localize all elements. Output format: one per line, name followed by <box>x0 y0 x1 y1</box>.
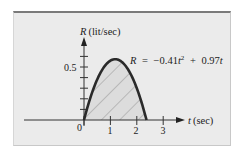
chart-plot: R(lit/sec) t(sec) 0.5 0 1 2 3 R = −0.41t… <box>0 0 240 159</box>
origin-label: 0 <box>77 122 82 133</box>
y-axis-label: R(lit/sec) <box>79 26 121 38</box>
x-tick-label-3: 3 <box>161 125 166 136</box>
equation-label: R = −0.41t2 + 0.97t <box>129 51 224 66</box>
y-axis-arrow-icon <box>81 37 87 46</box>
y-tick-label-0-5: 0.5 <box>64 62 77 73</box>
x-tick-label-1: 1 <box>108 125 113 136</box>
x-tick-label-2: 2 <box>134 125 139 136</box>
x-axis-label: t(sec) <box>188 115 214 127</box>
x-axis-arrow-icon <box>176 117 185 123</box>
